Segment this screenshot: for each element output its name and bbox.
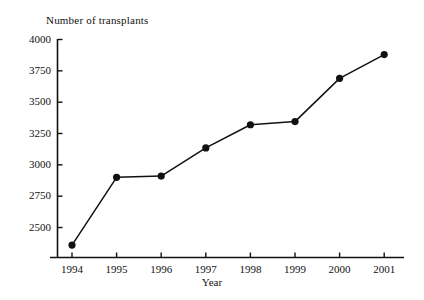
data-point (113, 174, 120, 181)
data-point (336, 75, 343, 82)
x-axis-label: Year (0, 276, 424, 288)
data-point (202, 144, 209, 151)
data-point (68, 241, 75, 248)
data-point (381, 51, 388, 58)
data-series-line (72, 55, 384, 246)
plot-area (0, 0, 424, 300)
data-point (158, 173, 165, 180)
data-point (291, 118, 298, 125)
data-point (247, 121, 254, 128)
line-chart: Number of transplants 250027503000325035… (0, 0, 424, 300)
data-point-markers (68, 51, 387, 249)
